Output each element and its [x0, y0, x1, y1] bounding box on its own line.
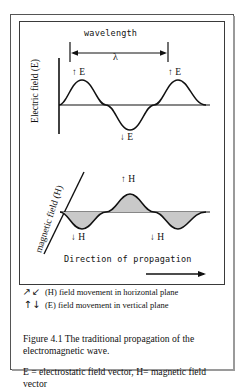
legend-item-e-label: (E) field movement in vertical plane: [45, 300, 168, 310]
h-down-right-label: ↓ H: [150, 232, 164, 242]
diagram-box: Electric field (E) magnetic field (H) wa…: [19, 21, 225, 285]
wavelength-span-group: [70, 42, 168, 62]
electromagnetic-wave-diagram: [20, 22, 224, 284]
slanted-arrows-icon: ↗↙: [19, 287, 45, 297]
vertical-arrows-icon: ↑↓: [19, 300, 45, 310]
figure-frame: Electric field (E) magnetic field (H) wa…: [10, 14, 234, 370]
caption-line-2: E = electrostatic field vector, H= magne…: [23, 366, 219, 391]
e-up-right-label: ↑ E: [168, 67, 181, 77]
h-up-label: ↑ H: [121, 174, 135, 184]
wavelength-label: wavelength: [84, 28, 137, 38]
e-down-label: ↓ E: [120, 132, 133, 142]
legend-item-h-label: (H) field movement in horizontal plane: [45, 287, 178, 297]
e-up-left-label: ↑ E: [72, 67, 85, 77]
propagation-arrow-icon: [146, 271, 206, 277]
propagation-label: Direction of propagation: [64, 254, 192, 264]
legend-item-e: ↑↓ (E) field movement in vertical plane: [19, 300, 225, 310]
caption-line-1: Figure 4.1 The traditional propagation o…: [23, 333, 219, 358]
h-down-left-label: ↓ H: [71, 232, 85, 242]
legend-item-h: ↗↙ (H) field movement in horizontal plan…: [19, 287, 225, 297]
lambda-symbol: λ: [113, 51, 118, 62]
legend: ↗↙ (H) field movement in horizontal plan…: [19, 287, 225, 313]
electric-field-axis-label: Electric field (E): [30, 45, 40, 137]
figure-caption: Figure 4.1 The traditional propagation o…: [23, 333, 219, 391]
